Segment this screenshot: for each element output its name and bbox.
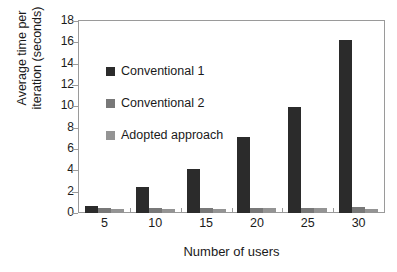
legend-swatch-icon bbox=[106, 67, 115, 76]
x-axis-tick-label: 30 bbox=[352, 216, 366, 230]
y-axis-title-line1: Average time per bbox=[15, 11, 30, 106]
y-axis-tick-label: 2 bbox=[67, 184, 74, 198]
legend-label: Conventional 2 bbox=[121, 96, 204, 110]
bar-adopted-approach-5 bbox=[111, 209, 124, 213]
bar-group bbox=[232, 21, 283, 213]
x-axis-tick-labels: 51015202530 bbox=[79, 216, 384, 236]
legend-item: Conventional 1 bbox=[106, 64, 223, 78]
bar-conventional-2-10 bbox=[149, 208, 162, 213]
x-axis-tick-mark bbox=[333, 208, 334, 213]
y-axis-tick-label: 10 bbox=[61, 98, 74, 112]
y-axis-tick-mark bbox=[72, 213, 78, 214]
bar-adopted-approach-25 bbox=[314, 208, 327, 213]
y-axis-tick-label: 4 bbox=[67, 162, 74, 176]
bar-conventional-2-25 bbox=[301, 208, 314, 213]
y-axis-tick-label: 12 bbox=[61, 77, 74, 91]
bar-conventional-1-10 bbox=[136, 187, 149, 213]
legend-label: Conventional 1 bbox=[121, 64, 204, 78]
legend-swatch-icon bbox=[106, 131, 115, 140]
bar-conventional-1-5 bbox=[85, 206, 98, 213]
x-axis-tick-mark bbox=[232, 208, 233, 213]
y-axis-tick-labels: 024681012141618 bbox=[50, 20, 74, 213]
y-axis-tick-mark bbox=[72, 170, 78, 171]
y-axis-tick-label: 6 bbox=[67, 141, 74, 155]
y-axis-tick-label: 0 bbox=[67, 205, 74, 219]
x-axis-tick-label: 15 bbox=[199, 216, 213, 230]
y-axis-tick-mark bbox=[72, 192, 78, 193]
bar-conventional-1-25 bbox=[288, 107, 301, 213]
y-axis-tick-mark bbox=[72, 64, 78, 65]
bar-group bbox=[282, 21, 333, 213]
y-axis-tick-mark bbox=[72, 128, 78, 129]
bar-group bbox=[333, 21, 384, 213]
bar-conventional-2-30 bbox=[352, 207, 365, 213]
y-axis-title: Average time per iteration (seconds) bbox=[10, 0, 50, 153]
y-axis-tick-label: 16 bbox=[61, 34, 74, 48]
x-axis-title: Number of users bbox=[79, 244, 384, 259]
y-axis-tick-label: 18 bbox=[61, 13, 74, 27]
bar-chart-figure: Average time per iteration (seconds) 024… bbox=[0, 0, 397, 272]
legend-item: Adopted approach bbox=[106, 128, 223, 142]
bar-conventional-1-15 bbox=[187, 169, 200, 213]
x-axis-tick-mark bbox=[181, 208, 182, 213]
y-axis-title-line2: iteration (seconds) bbox=[30, 7, 45, 110]
bar-conventional-1-20 bbox=[237, 137, 250, 213]
x-axis-tick-label: 5 bbox=[101, 216, 108, 230]
y-axis-tick-mark bbox=[72, 21, 78, 22]
x-axis-tick-label: 10 bbox=[148, 216, 162, 230]
legend-swatch-icon bbox=[106, 99, 115, 108]
legend-label: Adopted approach bbox=[121, 128, 223, 142]
bar-adopted-approach-15 bbox=[213, 209, 226, 213]
bar-adopted-approach-10 bbox=[162, 209, 175, 213]
x-axis-tick-mark bbox=[282, 208, 283, 213]
y-axis-tick-mark bbox=[72, 106, 78, 107]
bar-conventional-1-30 bbox=[339, 40, 352, 213]
x-axis-tick-mark bbox=[130, 208, 131, 213]
y-axis-tick-mark bbox=[72, 42, 78, 43]
bar-adopted-approach-30 bbox=[365, 209, 378, 213]
y-axis-tick-mark bbox=[72, 85, 78, 86]
legend-item: Conventional 2 bbox=[106, 96, 223, 110]
y-axis-tick-label: 8 bbox=[67, 120, 74, 134]
x-axis-tick-label: 25 bbox=[301, 216, 315, 230]
bar-conventional-2-5 bbox=[98, 208, 111, 213]
y-axis-tick-label: 14 bbox=[61, 56, 74, 70]
y-axis-tick-mark bbox=[72, 149, 78, 150]
bar-adopted-approach-20 bbox=[263, 208, 276, 213]
bar-conventional-2-20 bbox=[250, 208, 263, 213]
x-axis-tick-label: 20 bbox=[250, 216, 264, 230]
chart-legend: Conventional 1Conventional 2Adopted appr… bbox=[106, 64, 223, 142]
bar-conventional-2-15 bbox=[200, 208, 213, 213]
